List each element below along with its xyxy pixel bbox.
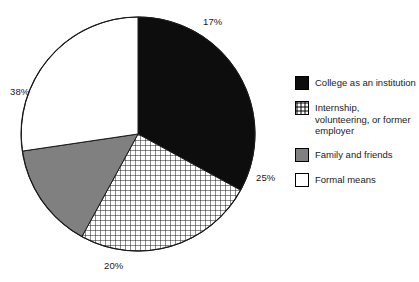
legend-label-internship-line1: Internship, xyxy=(315,102,359,113)
legend-item-internship: Internship,volunteering, or formeremploy… xyxy=(295,101,419,137)
legend-item-family-and-friends: Family and friends xyxy=(295,148,419,162)
pie-value-label-college-as-an-institution: 17% xyxy=(203,16,222,27)
legend-item-college-as-an-institution: College as an institution xyxy=(295,76,419,90)
legend-swatch-grey-icon xyxy=(295,148,309,162)
legend-label-internship-line2: volunteering, or former xyxy=(315,114,411,125)
legend-swatch-crosshatch-icon xyxy=(295,101,309,115)
legend-item-formal-means: Formal means xyxy=(295,173,419,187)
legend-label-formal-means: Formal means xyxy=(315,173,376,186)
legend-label-college-as-an-institution: College as an institution xyxy=(315,76,416,89)
pie-value-label-formal-means: 38% xyxy=(10,86,29,97)
pie-chart-figure: 17% 25% 20% 38% College as an institutio… xyxy=(0,0,419,282)
legend-label-internship: Internship,volunteering, or formeremploy… xyxy=(315,101,411,137)
legend-label-family-and-friends: Family and friends xyxy=(315,148,393,161)
legend-label-internship-line3: employer xyxy=(315,125,354,136)
pie-slice-formal-means xyxy=(21,17,138,151)
pie-value-label-internship: 25% xyxy=(256,172,275,183)
chart-legend: College as an institution Internship,vol… xyxy=(295,76,419,198)
pie-value-label-family-and-friends: 20% xyxy=(104,260,123,271)
legend-swatch-white-icon xyxy=(295,173,309,187)
legend-swatch-solid-black-icon xyxy=(295,76,309,90)
